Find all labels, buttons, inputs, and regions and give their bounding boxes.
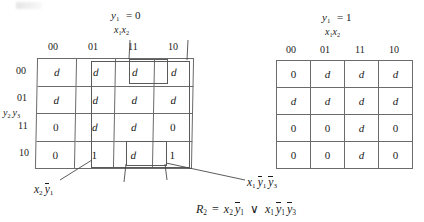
eq-t2-s3: 3 (292, 208, 296, 217)
eq-or-operator: ∨ (244, 202, 265, 216)
ann2-s3: 3 (273, 182, 277, 190)
ann1-v2: y (45, 184, 50, 196)
right-cell-r2c0[interactable]: 0 (277, 115, 311, 142)
result-equation: R2=x2y1∨x1y1y3 (196, 203, 296, 215)
ann2-v2: y (258, 177, 263, 189)
ann2-s2: 1 (263, 182, 267, 190)
right-col-header-2: 11 (355, 45, 365, 55)
right-cell-r0c0[interactable]: 0 (277, 61, 311, 88)
eq-lhs-sub: 2 (203, 208, 207, 217)
annotation-term-x1-y1bar-y3bar: x1y1y3 (247, 177, 277, 189)
right-cell-r0c3[interactable]: d (379, 61, 413, 88)
right-cell-r2c2[interactable]: d (345, 115, 379, 142)
right-map-title: y1 = 1 (322, 12, 352, 23)
right-cell-r3c0[interactable]: 0 (277, 142, 311, 169)
right-cell-r3c2[interactable]: d (345, 142, 379, 169)
eq-equals: = (207, 202, 224, 216)
right-col-header-1: 01 (320, 45, 330, 55)
right-map-title-eq: = 1 (333, 11, 351, 23)
right-cell-r2c3[interactable]: 0 (379, 115, 413, 142)
ann1-s2: 1 (50, 189, 54, 197)
right-map-col-vars: x1x2 (325, 27, 340, 37)
right-cell-r2c1[interactable]: 0 (311, 115, 345, 142)
right-cell-r1c3[interactable]: d (379, 88, 413, 115)
right-cell-r0c1[interactable]: d (311, 61, 345, 88)
eq-t1-s2: 1 (240, 208, 244, 217)
eq-t2-s1: 1 (270, 208, 274, 217)
right-col-header-0: 00 (286, 45, 296, 55)
right-cell-r1c1[interactable]: d (311, 88, 345, 115)
karnaugh-map-figure: y1 = 0 x1x2 00 01 11 10 y2y3 00 01 11 10… (0, 0, 424, 222)
right-col-var-1-sub: 1 (329, 31, 332, 38)
right-col-var-2-sub: 2 (337, 31, 340, 38)
ann1-s1: 2 (39, 189, 43, 197)
right-karnaugh-grid: 0 d d d d d d d 0 0 d 0 0 0 d 0 (276, 60, 413, 169)
right-col-header-3: 10 (389, 45, 399, 55)
right-cell-r1c2[interactable]: d (345, 88, 379, 115)
annotation-term-x2-y1bar: x2y1 (34, 184, 53, 196)
right-cell-r0c2[interactable]: d (345, 61, 379, 88)
right-map-title-sub: 1 (327, 17, 330, 24)
right-cell-r3c3[interactable]: 0 (379, 142, 413, 169)
eq-t1-s1: 2 (229, 208, 233, 217)
ann2-s1: 1 (252, 182, 256, 190)
right-cell-r1c0[interactable]: d (277, 88, 311, 115)
right-cell-r3c1[interactable]: 0 (311, 142, 345, 169)
eq-t2-s2: 1 (281, 208, 285, 217)
